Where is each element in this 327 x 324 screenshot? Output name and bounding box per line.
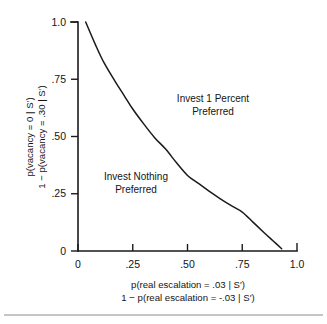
annotation-invest-nothing-line2: Preferred <box>115 184 157 195</box>
annotation-invest-one-percent-line2: Preferred <box>192 106 234 117</box>
x-tick-label: 1.0 <box>290 258 305 270</box>
y-tick-label: .75 <box>51 73 66 85</box>
y-tick-label: .50 <box>51 130 66 142</box>
y-axis-caption: p(vacancy = 0 | S′) 1 − p(vacancy = .30 … <box>24 85 47 188</box>
indifference-curve-chart: 0.25.50.751.0 0.25.50.751.0 Invest 1 Per… <box>0 0 327 324</box>
x-axis-caption-line1: p(real escalation = .03 | S′) <box>131 279 245 290</box>
annotation-invest-nothing-line1: Invest Nothing <box>104 171 168 182</box>
x-axis-caption-line2: 1 − p(real escalation = -.03 | S′) <box>121 292 254 303</box>
x-tick-label: .50 <box>180 258 195 270</box>
annotation-invest-one-percent-line1: Invest 1 Percent <box>177 93 249 104</box>
y-axis-caption-line2: 1 − p(vacancy = .30 | S′) <box>36 85 47 188</box>
x-tick-labels: 0.25.50.751.0 <box>75 258 304 270</box>
indifference-curve-path <box>86 22 282 249</box>
y-tick-label: 1.0 <box>51 16 66 28</box>
y-tick-labels: 0.25.50.751.0 <box>51 16 66 257</box>
figure-container: 0.25.50.751.0 0.25.50.751.0 Invest 1 Per… <box>0 0 327 324</box>
x-tick-group <box>78 244 242 251</box>
y-axis-caption-line1: p(vacancy = 0 | S′) <box>24 97 35 176</box>
y-tick-label: 0 <box>60 245 66 257</box>
x-axis-caption: p(real escalation = .03 | S′) 1 − p(real… <box>121 279 254 303</box>
x-tick-label: .75 <box>235 258 250 270</box>
annotation-invest-nothing: Invest Nothing Preferred <box>104 171 168 195</box>
y-tick-group <box>71 22 78 251</box>
x-tick-label: .25 <box>125 258 140 270</box>
x-tick-label: 0 <box>75 258 81 270</box>
annotation-invest-one-percent: Invest 1 Percent Preferred <box>177 93 249 117</box>
y-tick-label: .25 <box>51 187 66 199</box>
